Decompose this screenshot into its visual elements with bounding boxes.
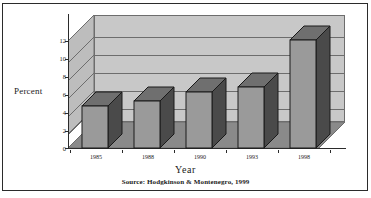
y-tick-mark [65,148,69,149]
y-tick-mark [65,113,69,114]
y-tick-label: 8 [46,73,66,80]
x-tick-mark [174,150,175,153]
y-tick-mark [65,41,69,42]
x-tick-mark [330,150,331,153]
y-tick-mark [65,59,69,60]
bar-1988[interactable] [134,85,178,150]
x-tick-mark [122,150,123,153]
bar-1998[interactable] [290,24,334,150]
y-tick-label: 6 [46,91,66,98]
bar-1990[interactable] [186,76,230,150]
bar-1985[interactable] [82,90,126,150]
x-tick-label: 1993 [232,154,272,161]
x-tick-label: 1998 [284,154,324,161]
source-caption: Source: Hodgkinson & Montenegro, 1999 [0,178,371,186]
y-axis-line [68,14,69,149]
y-tick-mark [65,77,69,78]
chart-figure: 12 10 8 6 4 2 0 Percent 1985 1988 1990 [0,0,371,198]
y-tick-mark [65,131,69,132]
x-tick-mark [278,150,279,153]
y-tick-label: 12 [46,37,66,44]
y-axis-title: Percent [14,86,42,96]
y-tick-label: 10 [46,55,66,62]
x-tick-mark [226,150,227,153]
plot-area: 12 10 8 6 4 2 0 Percent 1985 1988 1990 [0,0,371,198]
x-tick-mark [70,150,71,153]
y-tick-label: 2 [46,127,66,134]
x-axis-title: Year [0,164,371,175]
x-tick-label: 1985 [76,154,116,161]
x-axis-ticks: 1985 1988 1990 1993 1998 [0,150,371,164]
x-tick-label: 1988 [128,154,168,161]
y-tick-label: 4 [46,109,66,116]
x-tick-label: 1990 [180,154,220,161]
bar-1993[interactable] [238,71,282,150]
y-tick-mark [65,95,69,96]
